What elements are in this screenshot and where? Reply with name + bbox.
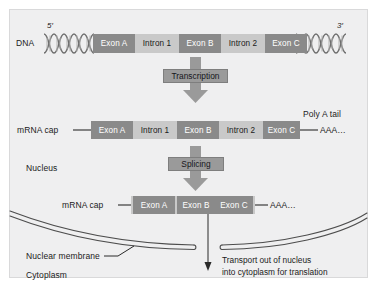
pre-mrna-segment-exon-c: Exon C [263, 121, 300, 139]
nucleus-label: Nucleus [26, 164, 57, 173]
pre-mrna-segment-exon-b: Exon B [177, 121, 219, 139]
dna-segment-exon-a: Exon A [93, 34, 135, 53]
dna-segment-exon-b: Exon B [179, 34, 221, 53]
splicing-step-box: Splicing [168, 157, 224, 171]
transcription-step-box: Transcription [163, 69, 228, 83]
mature-mrna-segment-exon-a: Exon A [133, 196, 175, 214]
pre-mrna-polya-text: AAA… [320, 126, 346, 135]
transport-text-line1: Transport out of nucleus [222, 255, 311, 267]
five-prime-label: 5′ [47, 21, 53, 30]
poly-a-tail-label: Poly A tail [303, 110, 341, 119]
pre-mrna-cap-label: mRNA cap [17, 126, 58, 135]
dna-segment-intron-2: Intron 2 [221, 34, 265, 53]
mature-mrna-segment-exon-b: Exon B [177, 196, 215, 214]
cytoplasm-label: Cytoplasm [26, 271, 67, 280]
dna-segment-exon-c: Exon C [265, 34, 307, 53]
pre-mrna-segment-intron-2: Intron 2 [219, 121, 263, 139]
nuclear-membrane-label: Nuclear membrane [26, 252, 100, 261]
transport-text-line2: into cytoplasm for translation [222, 267, 328, 279]
pre-mrna-segment-exon-a: Exon A [91, 121, 133, 139]
mature-mrna-segment-exon-c: Exon C [215, 196, 253, 214]
dna-label: DNA [16, 39, 34, 48]
three-prime-label: 3′ [337, 21, 343, 30]
diagram-canvas: DNA 5′ 3′ Exon A Intron 1 Exon B Intron … [0, 0, 377, 291]
mature-mrna-polya-text: AAA… [270, 201, 296, 210]
mature-mrna-cap-label: mRNA cap [62, 201, 103, 210]
dna-segment-intron-1: Intron 1 [135, 34, 179, 53]
pre-mrna-segment-intron-1: Intron 1 [133, 121, 177, 139]
